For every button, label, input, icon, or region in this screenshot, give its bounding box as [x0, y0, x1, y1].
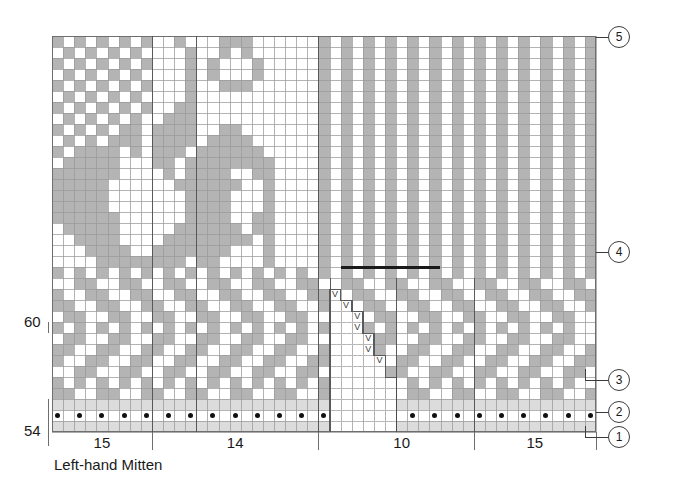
contrast-cell	[185, 69, 197, 81]
main-cell	[241, 124, 253, 136]
callout-2[interactable]: 2	[608, 401, 630, 423]
main-cell	[507, 256, 519, 268]
contrast-cell	[63, 91, 75, 103]
main-cell	[307, 124, 319, 136]
contrast-cell	[52, 190, 64, 202]
contrast-cell	[252, 223, 264, 235]
contrast-cell	[274, 322, 286, 334]
contrast-cell	[452, 300, 464, 312]
main-cell	[418, 201, 430, 213]
contrast-cell	[241, 300, 253, 312]
main-cell	[119, 190, 131, 202]
main-cell	[152, 355, 164, 367]
thumb-gusset-cell	[330, 311, 342, 323]
contrast-cell	[85, 190, 97, 202]
column-group-label-2: 14	[215, 434, 255, 451]
contrast-cell	[407, 135, 419, 147]
main-cell	[396, 91, 408, 103]
contrast-cell	[85, 47, 97, 59]
contrast-cell	[563, 179, 575, 191]
main-cell	[230, 333, 242, 345]
main-cell	[485, 212, 497, 224]
main-cell	[296, 179, 308, 191]
main-cell	[152, 179, 164, 191]
main-cell	[363, 278, 375, 290]
main-cell	[285, 355, 297, 367]
callout-1[interactable]: 1	[608, 426, 630, 448]
contrast-cell	[585, 80, 597, 92]
contrast-cell	[185, 300, 197, 312]
main-cell	[307, 135, 319, 147]
main-cell	[196, 91, 208, 103]
contrast-cell	[152, 245, 164, 257]
main-cell	[174, 344, 186, 356]
contrast-cell	[518, 146, 530, 158]
callout-4[interactable]: 4	[608, 241, 630, 263]
thumb-gusset-cell	[352, 421, 364, 433]
contrast-cell	[219, 355, 231, 367]
main-cell	[529, 410, 541, 422]
contrast-cell	[563, 102, 575, 114]
contrast-cell	[407, 47, 419, 59]
main-cell	[141, 190, 153, 202]
main-cell	[441, 113, 453, 125]
main-cell	[152, 80, 164, 92]
contrast-cell	[429, 102, 441, 114]
contrast-cell	[196, 168, 208, 180]
pale-cell	[418, 421, 430, 433]
main-cell	[507, 146, 519, 158]
contrast-cell	[540, 135, 552, 147]
contrast-cell	[130, 113, 142, 125]
main-cell	[196, 102, 208, 114]
contrast-cell	[385, 58, 397, 70]
main-cell	[141, 234, 153, 246]
main-cell	[174, 201, 186, 213]
pale-cell	[563, 421, 575, 433]
main-cell	[285, 377, 297, 389]
main-cell	[74, 69, 86, 81]
contrast-cell	[341, 267, 353, 279]
pale-cell	[163, 421, 175, 433]
contrast-cell	[185, 190, 197, 202]
main-cell	[352, 36, 364, 48]
main-cell	[263, 377, 275, 389]
purl-stitch-dot	[477, 413, 482, 418]
main-cell	[396, 113, 408, 125]
main-cell	[307, 146, 319, 158]
contrast-cell	[496, 388, 508, 400]
main-cell	[130, 157, 142, 169]
pale-cell	[396, 421, 408, 433]
contrast-cell	[96, 377, 108, 389]
contrast-cell	[418, 300, 430, 312]
main-cell	[263, 124, 275, 136]
callout-3[interactable]: 3	[608, 369, 630, 391]
contrast-cell	[474, 102, 486, 114]
main-cell	[552, 289, 564, 301]
main-cell	[63, 234, 75, 246]
main-cell	[441, 124, 453, 136]
contrast-cell	[63, 157, 75, 169]
main-cell	[518, 355, 530, 367]
main-cell	[396, 234, 408, 246]
main-cell	[274, 168, 286, 180]
main-cell	[108, 201, 120, 213]
main-cell	[374, 69, 386, 81]
contrast-cell	[474, 36, 486, 48]
contrast-cell	[63, 333, 75, 345]
main-cell	[485, 190, 497, 202]
gusset-step-vertical	[351, 300, 352, 311]
contrast-cell	[196, 388, 208, 400]
main-cell	[441, 69, 453, 81]
callout-leader	[596, 252, 608, 253]
main-cell	[130, 344, 142, 356]
contrast-cell	[185, 157, 197, 169]
main-cell	[274, 278, 286, 290]
callout-5[interactable]: 5	[608, 26, 630, 48]
contrast-cell	[407, 102, 419, 114]
grid-line-horizontal	[52, 432, 596, 433]
contrast-cell	[385, 311, 397, 323]
main-cell	[529, 179, 541, 191]
contrast-cell	[196, 190, 208, 202]
main-cell	[529, 234, 541, 246]
main-cell	[252, 47, 264, 59]
